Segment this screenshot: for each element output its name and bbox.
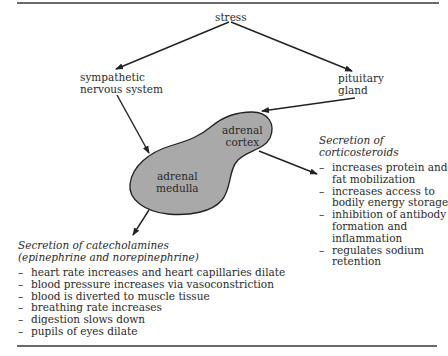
arrow-pituitary-to-cortex	[262, 98, 355, 111]
list-item: fat mobilization	[319, 174, 448, 186]
medulla-line1: adrenal	[156, 170, 199, 182]
pituitary-gland-label: pituitary gland	[338, 72, 384, 96]
corticosteroids-title-line2: corticosteroids	[319, 146, 399, 158]
sympathetic-nervous-system-label: sympathetic nervous system	[80, 71, 163, 95]
arrow-stress-to-pituitary	[231, 22, 352, 71]
corticosteroids-title-line1: Secretion of	[319, 134, 399, 146]
catecholamines-title-line2: (epinephrine and norepinephrine)	[18, 251, 199, 263]
medulla-line2: medulla	[156, 182, 199, 194]
list-item: retention	[319, 256, 448, 268]
arrow-sympathetic-to-medulla	[117, 95, 149, 153]
corticosteroids-title: Secretion of corticosteroids	[319, 134, 399, 158]
arrow-stress-to-sympathetic	[116, 22, 229, 69]
cortex-line1: adrenal	[222, 124, 263, 136]
adrenal-medulla-label: adrenal medulla	[156, 170, 199, 194]
pituitary-line2: gland	[338, 84, 384, 96]
sympathetic-line1: sympathetic	[80, 71, 163, 83]
sympathetic-line2: nervous system	[80, 83, 163, 95]
arrow-medulla-to-catecholamines	[133, 210, 149, 235]
corticosteroids-effects-list: increases protein and fat mobilization i…	[319, 162, 448, 268]
catecholamines-title: Secretion of catecholamines (epinephrine…	[18, 239, 199, 263]
stress-label: stress	[215, 11, 247, 23]
adrenal-cortex-label: adrenal cortex	[222, 124, 263, 148]
catecholamines-effects-list: heart rate increases and heart capillari…	[18, 267, 285, 338]
list-item: pupils of eyes dilate	[18, 326, 285, 338]
list-item: blood pressure increases via vasoconstri…	[18, 279, 285, 291]
arrow-cortex-to-corticosteroids	[259, 151, 317, 174]
list-item: inflammation	[319, 233, 448, 245]
catecholamines-title-line1: Secretion of catecholamines	[18, 239, 199, 251]
pituitary-line1: pituitary	[338, 72, 384, 84]
list-item: formation and	[319, 221, 448, 233]
cortex-line2: cortex	[222, 136, 263, 148]
